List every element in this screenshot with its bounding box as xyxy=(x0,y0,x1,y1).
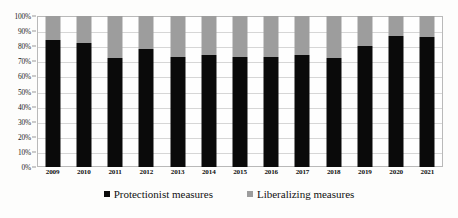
bar-segment-protectionist xyxy=(326,58,341,167)
legend-label: Protectionist measures xyxy=(114,188,213,200)
x-axis-tick-label: 2011 xyxy=(99,168,130,176)
y-axis-tick-mark xyxy=(32,61,36,62)
bar-group xyxy=(162,16,193,167)
x-axis-tick-label: 2009 xyxy=(37,168,68,176)
bar-stack xyxy=(232,16,247,167)
y-axis-tick-label: 80% xyxy=(18,42,31,51)
bar-group xyxy=(381,16,412,167)
bar-segment-liberalizing xyxy=(108,16,123,58)
y-axis-tick-label: 90% xyxy=(18,27,31,36)
y-axis-tick-mark xyxy=(32,91,36,92)
bars-layer xyxy=(37,16,443,167)
bar-segment-liberalizing xyxy=(295,16,310,55)
y-axis-tick-mark xyxy=(32,121,36,122)
x-axis-tick-label: 2021 xyxy=(412,168,443,176)
bar-segment-protectionist xyxy=(76,43,91,167)
bar-segment-protectionist xyxy=(264,57,279,167)
bar-segment-protectionist xyxy=(170,57,185,167)
bar-segment-liberalizing xyxy=(170,16,185,57)
bar-group xyxy=(99,16,130,167)
bar-segment-protectionist xyxy=(295,55,310,167)
bar-segment-protectionist xyxy=(108,58,123,167)
bar-group xyxy=(37,16,68,167)
bar-segment-liberalizing xyxy=(76,16,91,43)
x-axis-tick-label: 2015 xyxy=(224,168,255,176)
bar-segment-liberalizing xyxy=(139,16,154,49)
y-axis-tick-label: 50% xyxy=(18,87,31,96)
bar-segment-liberalizing xyxy=(232,16,247,57)
y-axis: 0%10%20%30%40%50%60%70%80%90%100% xyxy=(0,16,36,167)
bar-segment-liberalizing xyxy=(326,16,341,58)
bar-segment-protectionist xyxy=(389,36,404,167)
bar-group xyxy=(412,16,443,167)
y-axis-tick-label: 10% xyxy=(18,147,31,156)
x-axis-tick-label: 2013 xyxy=(162,168,193,176)
y-axis-tick-mark xyxy=(32,46,36,47)
stacked-bar-chart: 0%10%20%30%40%50%60%70%80%90%100% 200920… xyxy=(0,0,458,218)
legend-item[interactable]: Protectionist measures xyxy=(104,188,213,200)
y-axis-tick-label: 70% xyxy=(18,57,31,66)
y-axis-tick-label: 0% xyxy=(21,163,31,172)
x-axis-tick-label: 2016 xyxy=(256,168,287,176)
bar-stack xyxy=(295,16,310,167)
bar-segment-protectionist xyxy=(357,46,372,167)
y-axis-tick-mark xyxy=(32,151,36,152)
y-axis-tick-label: 60% xyxy=(18,72,31,81)
y-axis-tick-label: 20% xyxy=(18,132,31,141)
x-axis-tick-label: 2014 xyxy=(193,168,224,176)
bar-group xyxy=(318,16,349,167)
bar-segment-liberalizing xyxy=(420,16,435,37)
bar-segment-protectionist xyxy=(201,55,216,167)
bar-stack xyxy=(420,16,435,167)
x-axis-tick-label: 2017 xyxy=(287,168,318,176)
bar-stack xyxy=(264,16,279,167)
y-axis-tick-mark xyxy=(32,136,36,137)
bar-segment-protectionist xyxy=(45,40,60,167)
bar-segment-protectionist xyxy=(420,37,435,167)
bar-stack xyxy=(139,16,154,167)
bar-segment-protectionist xyxy=(139,49,154,167)
y-axis-tick-label: 100% xyxy=(14,12,31,21)
bar-stack xyxy=(389,16,404,167)
x-axis-tick-label: 2019 xyxy=(349,168,380,176)
legend-swatch-icon xyxy=(104,191,110,197)
y-axis-tick-label: 40% xyxy=(18,102,31,111)
bar-segment-liberalizing xyxy=(45,16,60,40)
bar-group xyxy=(349,16,380,167)
bar-segment-liberalizing xyxy=(201,16,216,55)
bar-segment-liberalizing xyxy=(389,16,404,36)
chart-legend: Protectionist measuresLiberalizing measu… xyxy=(0,188,458,200)
bar-segment-protectionist xyxy=(232,57,247,167)
y-axis-tick-mark xyxy=(32,76,36,77)
bar-stack xyxy=(76,16,91,167)
bar-stack xyxy=(357,16,372,167)
bar-group xyxy=(287,16,318,167)
x-axis-tick-label: 2018 xyxy=(318,168,349,176)
bar-stack xyxy=(45,16,60,167)
legend-label: Liberalizing measures xyxy=(257,188,354,200)
y-axis-tick-mark xyxy=(32,31,36,32)
bar-stack xyxy=(108,16,123,167)
x-axis-tick-label: 2010 xyxy=(68,168,99,176)
legend-item[interactable]: Liberalizing measures xyxy=(247,188,354,200)
bar-group xyxy=(256,16,287,167)
legend-swatch-icon xyxy=(247,191,253,197)
y-axis-tick-mark xyxy=(32,106,36,107)
bar-group xyxy=(68,16,99,167)
bar-group xyxy=(224,16,255,167)
y-axis-tick-mark xyxy=(32,167,36,168)
x-axis-tick-label: 2012 xyxy=(131,168,162,176)
bar-group xyxy=(131,16,162,167)
x-axis: 2009201020112012201320142015201620172018… xyxy=(37,168,443,182)
bar-stack xyxy=(201,16,216,167)
bar-segment-liberalizing xyxy=(357,16,372,46)
y-axis-tick-label: 30% xyxy=(18,117,31,126)
y-axis-tick-mark xyxy=(32,16,36,17)
bar-segment-liberalizing xyxy=(264,16,279,57)
bar-stack xyxy=(170,16,185,167)
x-axis-tick-label: 2020 xyxy=(381,168,412,176)
bar-stack xyxy=(326,16,341,167)
bar-group xyxy=(193,16,224,167)
